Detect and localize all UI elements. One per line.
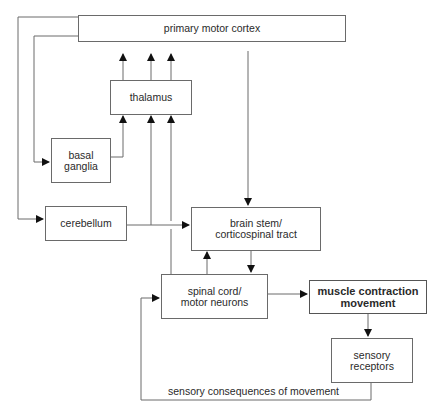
node-label-line2: corticospinal tract	[215, 229, 297, 240]
node-label-line2: movement	[318, 297, 419, 309]
node-label-line2: receptors	[350, 361, 394, 372]
node-muscle-contraction: muscle contraction movement	[309, 280, 427, 314]
node-primary-motor-cortex: primary motor cortex	[78, 15, 346, 42]
node-label-line1: basal	[64, 150, 98, 161]
node-label: thalamus	[130, 92, 173, 103]
node-basal-ganglia: basal ganglia	[51, 138, 111, 183]
node-thalamus: thalamus	[110, 80, 192, 115]
node-label: primary motor cortex	[164, 23, 260, 34]
node-cerebellum: cerebellum	[45, 206, 127, 241]
node-label: cerebellum	[60, 218, 111, 229]
node-label-line1: spinal cord/	[181, 286, 249, 297]
edge-basal-ganglia-thalamus	[110, 116, 123, 157]
node-sensory-receptors: sensory receptors	[331, 338, 413, 383]
edge-label-sensory-consequences: sensory consequences of movement	[168, 385, 339, 397]
node-label-line1: sensory	[350, 350, 394, 361]
node-spinal-cord: spinal cord/ motor neurons	[161, 274, 268, 319]
node-label-line2: ganglia	[64, 161, 98, 172]
node-label-line2: motor neurons	[181, 297, 249, 308]
edge-cortex-cerebellum	[18, 17, 78, 219]
node-label-line1: muscle contraction	[318, 285, 419, 297]
node-brain-stem: brain stem/ corticospinal tract	[191, 207, 321, 251]
